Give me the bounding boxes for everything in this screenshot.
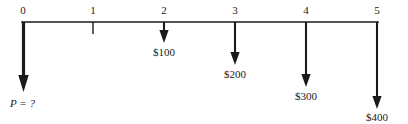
arrowhead-period-0: [18, 75, 28, 92]
cash-flow-svg-canvas: P = ? $100 $200 $300 $400: [0, 0, 408, 124]
cash-flow-period-3: $200: [224, 22, 247, 80]
cash-flow-period-5: $400: [366, 22, 389, 123]
arrowhead-period-4: [301, 74, 310, 87]
period-label-4: 4: [303, 4, 309, 16]
period-label-2: 2: [161, 4, 167, 16]
cash-flow-period-4: $300: [295, 22, 318, 102]
arrowhead-period-2: [159, 30, 168, 43]
period-label-1: 1: [90, 4, 96, 16]
label-amount-period-2: $100: [153, 46, 176, 58]
label-amount-period-5: $400: [366, 111, 389, 123]
label-unknown-present-value: P = ?: [9, 97, 35, 109]
arrowhead-period-5: [372, 96, 381, 109]
period-label-5: 5: [374, 4, 380, 16]
label-amount-period-4: $300: [295, 90, 318, 102]
cash-flow-period-2: $100: [153, 22, 176, 58]
label-amount-period-3: $200: [224, 68, 247, 80]
cash-flow-diagram: P = ? $100 $200 $300 $400: [0, 0, 408, 124]
period-label-3: 3: [232, 4, 238, 16]
period-label-0: 0: [20, 4, 26, 16]
cash-flow-period-0: P = ?: [9, 22, 35, 109]
arrowhead-period-3: [230, 52, 239, 65]
